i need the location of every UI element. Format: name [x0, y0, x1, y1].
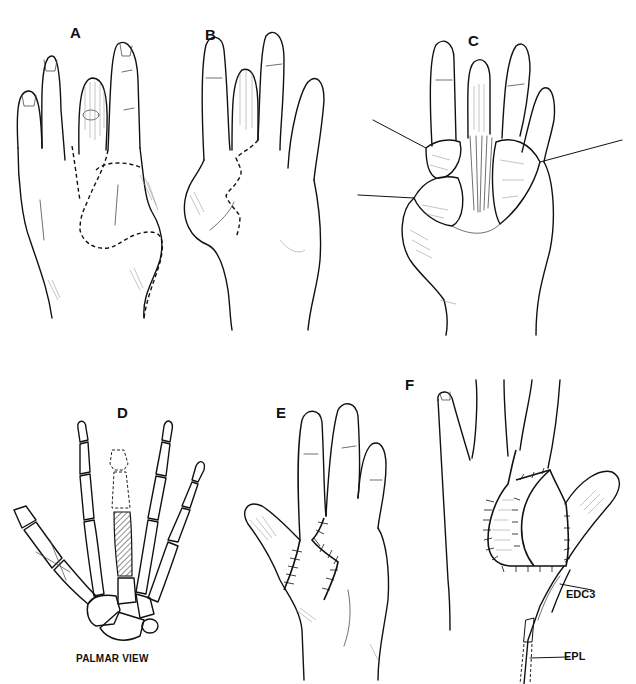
panel-a: A	[0, 0, 200, 340]
epl-label: EPL	[564, 650, 585, 662]
hand-sutured-palm-drawing	[220, 390, 430, 684]
hand-skeleton-drawing	[0, 390, 230, 650]
panel-label-f: F	[405, 376, 414, 393]
hatched-bone-graft	[114, 512, 132, 576]
hand-opened-flaps-drawing	[340, 0, 636, 340]
panel-d: D	[0, 390, 230, 680]
hand-palmar-incision-drawing	[180, 0, 360, 340]
surgical-illustration-figure: A	[0, 0, 636, 684]
panel-b: B	[180, 0, 360, 340]
panel-f: F EDC3 EPL	[420, 380, 636, 684]
hand-tendon-transfer-drawing	[420, 380, 636, 684]
edc3-label: EDC3	[566, 588, 595, 600]
hand-dorsal-drawing	[0, 0, 200, 340]
panel-c: C	[340, 0, 636, 340]
palmar-view-caption: PALMAR VIEW	[76, 653, 149, 664]
panel-e: E	[220, 390, 430, 684]
